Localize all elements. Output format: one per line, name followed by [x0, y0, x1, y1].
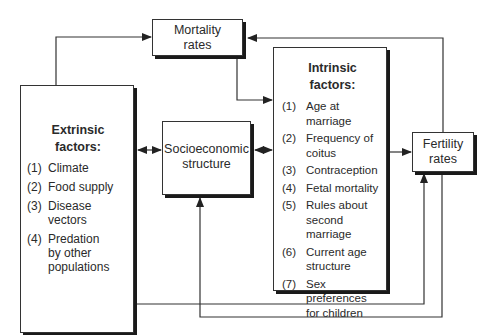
socioeconomic-label-line1: Socioeconomic — [164, 142, 249, 157]
intrinsic-factor-item: (4) Fetal mortality — [282, 181, 383, 196]
intrinsic-factor-item: (5) Rules about second marriage — [282, 198, 383, 242]
item-number: (3) — [282, 163, 306, 178]
extrinsic-title-line2: factors: — [27, 139, 129, 156]
extrinsic-title-line1: Extrinsic — [27, 122, 129, 139]
intrinsic-factor-item: (7) Sex preferences for children — [282, 277, 383, 321]
item-text: Frequency of coitus — [306, 131, 378, 160]
item-number: (1) — [282, 99, 306, 128]
extrinsic-factor-item: (2) Food supply — [27, 180, 129, 194]
item-text: Contraception — [306, 163, 383, 178]
item-text: Food supply — [48, 180, 129, 194]
item-number: (3) — [27, 199, 48, 227]
extrinsic-factors-node: Extrinsic factors: (1) Climate (2) Food … — [20, 85, 134, 333]
item-text: Climate — [48, 161, 129, 175]
edge-mortality-to-intrinsic — [237, 56, 272, 100]
intrinsic-factors-node: Intrinsic factors: (1) Age at marriage (… — [273, 47, 387, 291]
intrinsic-factor-list: (1) Age at marriage (2) Frequency of coi… — [282, 99, 383, 320]
item-number: (2) — [282, 131, 306, 160]
item-number: (7) — [282, 277, 306, 321]
item-number: (4) — [282, 181, 306, 196]
item-text: Disease vectors — [48, 199, 129, 227]
socioeconomic-label-line2: structure — [164, 157, 249, 172]
item-text: Sex preferences for children — [306, 277, 383, 321]
item-number: (4) — [27, 232, 48, 274]
intrinsic-title-line2: factors: — [282, 77, 383, 94]
mortality-label-line1: Mortality — [174, 23, 221, 38]
extrinsic-factor-item: (3) Disease vectors — [27, 199, 129, 227]
fertility-label-line1: Fertility — [423, 137, 463, 152]
item-text: Current age structure — [306, 245, 372, 274]
intrinsic-factor-item: (3) Contraception — [282, 163, 383, 178]
intrinsic-factor-item: (2) Frequency of coitus — [282, 131, 383, 160]
intrinsic-factor-item: (1) Age at marriage — [282, 99, 383, 128]
item-number: (5) — [282, 198, 306, 242]
socioeconomic-structure-node: Socioeconomic structure — [162, 121, 251, 195]
item-text: Rules about second marriage — [306, 198, 383, 242]
extrinsic-factor-list: (1) Climate (2) Food supply (3) Disease … — [27, 161, 129, 274]
extrinsic-factor-item: (1) Climate — [27, 161, 129, 175]
item-text: Predation by other populations — [48, 232, 110, 274]
intrinsic-title-line1: Intrinsic — [282, 60, 383, 77]
mortality-label-line2: rates — [174, 38, 221, 53]
item-number: (1) — [27, 161, 48, 175]
mortality-rates-node: Mortality rates — [152, 19, 243, 56]
edge-extrinsic-to-mortality — [56, 37, 151, 85]
item-number: (2) — [27, 180, 48, 194]
item-number: (6) — [282, 245, 306, 274]
item-text: Age at marriage — [306, 99, 362, 128]
item-text: Fetal mortality — [306, 181, 383, 196]
intrinsic-factor-item: (6) Current age structure — [282, 245, 383, 274]
fertility-rates-node: Fertility rates — [412, 132, 474, 172]
fertility-label-line2: rates — [423, 152, 463, 167]
intrinsic-title: Intrinsic factors: — [282, 60, 383, 94]
extrinsic-factor-item: (4) Predation by other populations — [27, 232, 129, 274]
extrinsic-title: Extrinsic factors: — [27, 122, 129, 156]
